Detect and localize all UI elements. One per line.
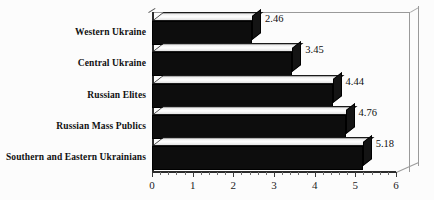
value-axis-minor-tick (347, 172, 348, 175)
value-axis-minor-tick (282, 172, 283, 175)
value-axis-minor-tick (266, 172, 267, 175)
bar (152, 84, 333, 108)
value-axis-tick-label: 6 (384, 178, 408, 192)
value-axis-tick-label: 5 (343, 178, 367, 192)
category-label: Russian Elites (0, 90, 146, 101)
bar (152, 52, 292, 76)
category-label: Russian Mass Publics (0, 121, 146, 132)
bar-front-face (152, 52, 292, 76)
value-axis-minor-tick (176, 172, 177, 175)
value-axis-minor-tick (168, 172, 169, 175)
value-axis-tick (274, 172, 275, 177)
value-axis-minor-tick (372, 172, 373, 175)
bar-value-label: 4.76 (359, 107, 377, 119)
value-axis-tick (315, 172, 316, 177)
value-axis-minor-tick (217, 172, 218, 175)
value-axis-tick-label: 1 (181, 178, 205, 192)
plot-frame-right-edge (418, 6, 419, 166)
value-axis-minor-tick (160, 172, 161, 175)
bar-front-face (152, 115, 346, 139)
bar-front-face (152, 21, 252, 45)
value-axis-minor-tick (185, 172, 186, 175)
value-axis-minor-tick (307, 172, 308, 175)
value-axis-minor-tick (380, 172, 381, 175)
bar-top-face (152, 106, 357, 115)
category-label: Western Ukraine (0, 27, 146, 38)
value-axis-tick (233, 172, 234, 177)
bar-top-face (152, 12, 264, 21)
bar-top-face (152, 43, 304, 52)
value-axis-tick-label: 3 (262, 178, 286, 192)
value-axis-minor-tick (258, 172, 259, 175)
value-axis-tick (396, 172, 397, 177)
value-axis-tick-label: 4 (303, 178, 327, 192)
bar (152, 146, 363, 170)
value-axis-minor-tick (201, 172, 202, 175)
bar-value-label: 2.46 (265, 13, 283, 25)
value-axis-minor-tick (323, 172, 324, 175)
value-axis-tick (152, 172, 153, 177)
bar-value-label: 3.45 (305, 44, 323, 56)
value-axis-minor-tick (225, 172, 226, 175)
bar-value-label: 5.18 (376, 138, 394, 150)
bar-front-face (152, 84, 333, 108)
value-axis-minor-tick (388, 172, 389, 175)
value-axis-minor-tick (209, 172, 210, 175)
value-axis-minor-tick (241, 172, 242, 175)
bar-value-label: 4.44 (346, 76, 364, 88)
value-axis-tick-label: 2 (221, 178, 245, 192)
category-label: Southern and Eastern Ukrainians (0, 152, 146, 163)
value-axis-minor-tick (290, 172, 291, 175)
value-axis-minor-tick (298, 172, 299, 175)
bar-front-face (152, 146, 363, 170)
bar (152, 21, 252, 45)
value-axis-tick (355, 172, 356, 177)
value-axis-tick (193, 172, 194, 177)
category-label: Central Ukraine (0, 58, 146, 69)
value-axis-minor-tick (250, 172, 251, 175)
value-axis-minor-tick (339, 172, 340, 175)
bar-top-face (152, 75, 344, 84)
value-axis-minor-tick (363, 172, 364, 175)
bar (152, 115, 346, 139)
bar-chart: 2.463.454.444.765.18 0123456 Western Ukr… (0, 0, 434, 200)
bar-top-face (152, 137, 374, 146)
value-axis-tick-label: 0 (140, 178, 164, 192)
value-axis-minor-tick (331, 172, 332, 175)
